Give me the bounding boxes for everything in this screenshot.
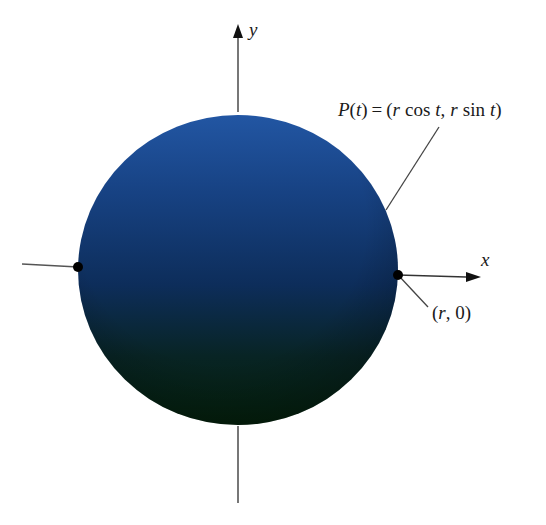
y-axis-arrow-icon (233, 24, 243, 38)
x-axis-right (398, 275, 466, 277)
circle-shading (78, 115, 398, 425)
r0-leader-line (399, 276, 428, 307)
unit-circle-diagram: y x P(t)=(rcost,rsint) (r, 0) (0, 0, 546, 525)
point-r0-label: (r, 0) (432, 302, 471, 324)
x-axis-arrow-icon (466, 272, 481, 282)
point-p-label: P(t)=(rcost,rsint) (337, 99, 502, 121)
left-point-dot (73, 262, 83, 272)
p-leader-line (386, 127, 439, 210)
x-axis-left (22, 264, 78, 267)
y-axis-label: y (247, 19, 258, 40)
x-axis-label: x (480, 249, 490, 270)
right-point-dot (393, 270, 403, 280)
